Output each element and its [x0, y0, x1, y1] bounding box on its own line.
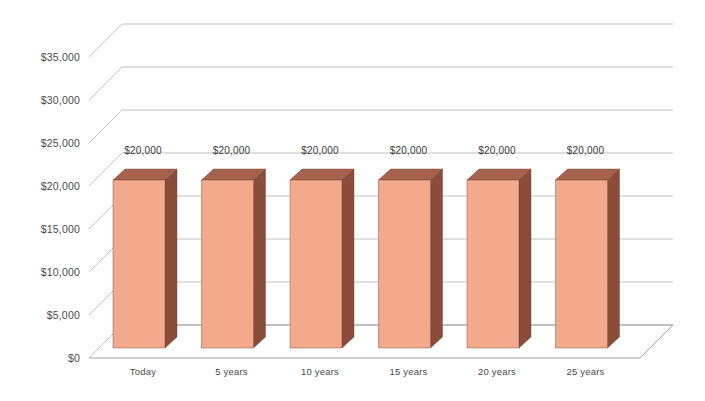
bar-data-label: $20,000 [124, 145, 162, 156]
bar-side-face [431, 169, 443, 348]
chart-container: $0$5,000$10,000$15,000$20,000$25,000$30,… [0, 0, 705, 401]
y-axis-tick-label: $0 [68, 352, 80, 364]
x-axis-tick-label: 10 years [301, 366, 339, 377]
bar-side-face [165, 169, 177, 348]
bar-side-face [254, 169, 266, 348]
y-axis-tick-label: $25,000 [41, 137, 80, 149]
y-axis-labels: $0$5,000$10,000$15,000$20,000$25,000$30,… [41, 51, 80, 364]
gridline-30000 [89, 67, 673, 100]
y-axis-tick-label: $30,000 [41, 94, 80, 106]
bar-10-years [290, 169, 354, 348]
bar-15-years [379, 169, 443, 348]
y-axis-tick-label: $20,000 [41, 180, 80, 192]
bar-25-years [556, 169, 620, 348]
x-axis-tick-label: 5 years [215, 366, 248, 377]
x-axis-tick-label: 20 years [478, 366, 516, 377]
bar-Today [113, 169, 177, 348]
gridline-25000 [89, 110, 673, 143]
bar-side-face [519, 169, 531, 348]
x-axis-tick-label: Today [130, 366, 156, 377]
x-axis-tick-label: 25 years [566, 366, 604, 377]
bar-data-label: $20,000 [390, 145, 428, 156]
x-axis-tick-label: 15 years [389, 366, 427, 377]
bar-side-face [342, 169, 354, 348]
bar-data-label: $20,000 [567, 145, 605, 156]
bar-front-face [556, 180, 608, 348]
gridline-35000 [89, 24, 673, 57]
bar-front-face [379, 180, 431, 348]
bar-data-label: $20,000 [301, 145, 339, 156]
data-labels-group: $20,000$20,000$20,000$20,000$20,000$20,0… [124, 145, 604, 156]
bar-data-label: $20,000 [213, 145, 251, 156]
bar-front-face [290, 180, 342, 348]
y-axis-tick-label: $10,000 [41, 266, 80, 278]
bar-front-face [467, 180, 519, 348]
y-axis-tick-label: $35,000 [41, 51, 80, 63]
bar-data-label: $20,000 [478, 145, 516, 156]
y-axis-tick-label: $15,000 [41, 223, 80, 235]
bar-side-face [608, 169, 620, 348]
y-axis-tick-label: $5,000 [47, 309, 80, 321]
x-axis-labels: Today5 years10 years15 years20 years25 y… [130, 366, 605, 377]
bar-5-years [202, 169, 266, 348]
bar-chart-3d: $0$5,000$10,000$15,000$20,000$25,000$30,… [0, 0, 705, 401]
bar-front-face [113, 180, 165, 348]
bar-20-years [467, 169, 531, 348]
bar-front-face [202, 180, 254, 348]
